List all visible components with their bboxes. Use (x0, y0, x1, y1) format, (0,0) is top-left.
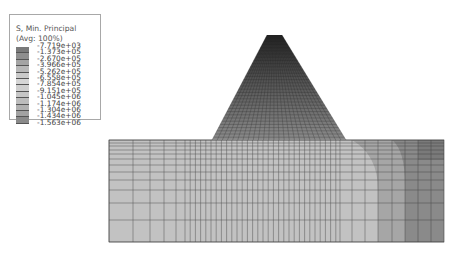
cone-mesh (212, 35, 346, 140)
fe-model-viewport[interactable] (0, 0, 459, 253)
base-block-mesh (109, 140, 444, 242)
